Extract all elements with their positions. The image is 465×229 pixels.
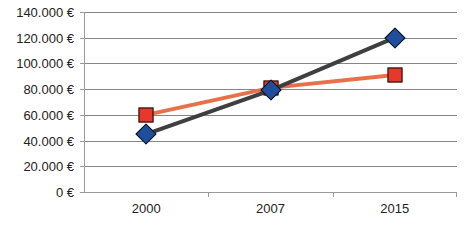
x-axis-tick	[208, 192, 209, 197]
data-point-series-2-2015	[387, 68, 402, 83]
x-axis-tick-label: 2015	[380, 202, 409, 215]
x-axis-tick	[456, 192, 457, 197]
x-axis-tick	[333, 192, 334, 197]
y-axis-tick-label: 80.000 €	[23, 83, 74, 96]
y-axis-labels: 0 €20.000 €40.000 €60.000 €80.000 €100.0…	[0, 12, 80, 192]
data-point-series-2-2000	[139, 107, 154, 122]
plot-area	[84, 12, 457, 192]
y-axis-tick	[80, 192, 84, 193]
y-axis-tick-label: 60.000 €	[23, 108, 74, 121]
y-axis-tick-label: 100.000 €	[16, 57, 74, 70]
x-axis-labels: 200020072015	[84, 198, 457, 220]
chart-container: 0 €20.000 €40.000 €60.000 €80.000 €100.0…	[0, 0, 465, 229]
gridline	[84, 192, 457, 193]
y-axis-tick-label: 120.000 €	[16, 31, 74, 44]
x-axis-tick-label: 2007	[256, 202, 285, 215]
y-axis-tick-label: 20.000 €	[23, 160, 74, 173]
y-axis-tick-label: 40.000 €	[23, 134, 74, 147]
y-axis-tick-label: 0 €	[56, 186, 74, 199]
x-axis-tick-label: 2000	[132, 202, 161, 215]
y-axis-tick-label: 140.000 €	[16, 6, 74, 19]
